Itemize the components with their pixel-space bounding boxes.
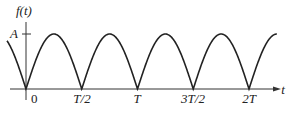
tick-label-half-t: T/2 xyxy=(73,91,91,106)
tick-label-0: 0 xyxy=(31,91,38,106)
amplitude-label: A xyxy=(9,26,18,41)
y-axis-label: f(t) xyxy=(16,3,32,18)
rectified-sine-diagram: f(t) t A 0 T/2 T 3T/2 2T xyxy=(0,0,287,113)
tick-label-3half-t: 3T/2 xyxy=(180,91,205,106)
tick-label-t: T xyxy=(133,91,141,106)
tick-label-2t: 2T xyxy=(242,91,257,106)
x-axis-arrow-icon xyxy=(273,87,281,92)
x-axis-label: t xyxy=(281,82,285,97)
rectified-sine-curve xyxy=(7,34,277,89)
